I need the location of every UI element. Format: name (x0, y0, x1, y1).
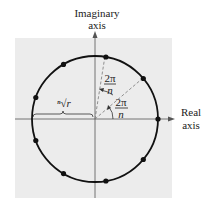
root-point (103, 54, 108, 59)
root-point (103, 178, 108, 183)
root-point (61, 171, 66, 176)
imaginary-axis-label-line2: axis (72, 20, 122, 31)
real-axis-label-line2: axis (176, 120, 206, 131)
root-point (155, 116, 160, 121)
root-point (33, 138, 38, 143)
angle-label-2-numerator: 2π (114, 97, 128, 108)
imaginary-axis-label-line1: Imaginary (72, 8, 122, 19)
radius-label: ⁿ√r (52, 98, 76, 109)
imaginary-axis-arrow-icon (93, 31, 98, 38)
root-point (141, 76, 146, 81)
background-panel (15, 38, 172, 198)
roots-of-unity-diagram (0, 0, 211, 208)
root-point (33, 95, 38, 100)
root-point (141, 157, 146, 162)
root-point (61, 62, 66, 67)
angle-label-2-denominator: n (114, 109, 128, 120)
angle-label-1-denominator: n (103, 85, 117, 96)
angle-label-1-numerator: 2π (103, 73, 117, 84)
real-axis-label-line1: Real (176, 107, 206, 118)
